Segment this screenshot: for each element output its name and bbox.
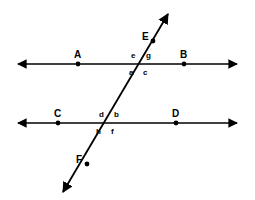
geometry-figure: A B C D E F e g a c d b h f — [0, 0, 255, 200]
angle-label-b: b — [114, 111, 119, 119]
point-marker-d — [174, 121, 179, 126]
geometry-canvas — [0, 0, 255, 200]
angle-label-d: d — [99, 111, 104, 119]
point-label-b: B — [180, 50, 187, 60]
point-marker-e — [151, 39, 156, 44]
point-marker-b — [182, 62, 187, 67]
point-label-a: A — [74, 50, 81, 60]
angle-label-g: g — [146, 52, 151, 60]
point-label-c: C — [54, 109, 61, 119]
angle-label-f: f — [111, 128, 114, 136]
point-label-d: D — [172, 109, 179, 119]
point-marker-c — [56, 121, 61, 126]
angle-label-a: a — [129, 69, 133, 77]
angle-label-e: e — [131, 52, 135, 60]
angle-label-c: c — [143, 69, 147, 77]
point-marker-f — [85, 162, 90, 167]
point-label-e: E — [142, 32, 149, 42]
angle-label-h: h — [96, 128, 101, 136]
point-marker-a — [76, 62, 81, 67]
point-label-f: F — [76, 155, 82, 165]
